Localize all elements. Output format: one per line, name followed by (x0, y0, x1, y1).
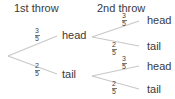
numerator: 2 (35, 63, 39, 69)
prob-tail-head: 3 5 (121, 56, 127, 70)
branch-tail-to-head (92, 66, 139, 76)
numerator: 3 (122, 56, 126, 62)
prob-head-head: 3 5 (121, 13, 127, 27)
branch-root-to-tail (8, 56, 57, 74)
prob-first-tail: 2 5 (34, 63, 40, 77)
numerator: 2 (112, 42, 116, 48)
header-first-throw: 1st throw (14, 2, 59, 14)
branch-head-to-head (92, 21, 139, 37)
node-first-head: head (62, 29, 86, 41)
node-first-tail: tail (62, 68, 76, 80)
denominator: 5 (122, 21, 126, 27)
prob-tail-tail: 2 5 (111, 81, 117, 95)
node-head-head: head (147, 14, 171, 26)
denominator: 5 (122, 64, 126, 70)
denominator: 5 (35, 36, 39, 42)
prob-first-head: 3 5 (34, 28, 40, 42)
numerator: 3 (35, 28, 39, 34)
denominator: 5 (112, 89, 116, 95)
prob-head-tail: 2 5 (111, 42, 117, 56)
numerator: 3 (122, 13, 126, 19)
branch-root-to-head (8, 36, 57, 56)
node-tail-head: head (147, 60, 171, 72)
denominator: 5 (35, 71, 39, 77)
node-tail-tail: tail (147, 83, 161, 95)
node-head-tail: tail (147, 40, 161, 52)
denominator: 5 (112, 50, 116, 56)
numerator: 2 (112, 81, 116, 87)
